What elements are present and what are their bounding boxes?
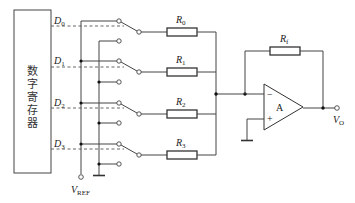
- opamp-noninverting-sign: +: [267, 113, 273, 124]
- register-char-2: 字: [27, 77, 38, 91]
- dac-circuit-diagram: 数 字 寄 存 器 D0 D1 D2 D3 VREF: [0, 0, 355, 203]
- output-label: VO: [333, 114, 344, 127]
- input-resistors: R0 R1 R2 R3: [141, 14, 216, 159]
- register-char-3: 寄: [27, 90, 38, 104]
- digital-register: 数 字 寄 存 器: [14, 10, 51, 173]
- register-char-4: 存: [27, 103, 38, 117]
- feedback-resistor-label: Rf: [279, 33, 289, 46]
- resistor-label-r0: R0: [175, 14, 186, 27]
- vref-terminal: [79, 175, 84, 180]
- bit-labels: D0 D1 D2 D3: [53, 15, 65, 151]
- opamp-inverting-sign: −: [267, 89, 273, 100]
- resistor-r2: R2: [141, 96, 216, 118]
- register-char-1: 数: [27, 65, 38, 78]
- switch-s2: [117, 101, 141, 125]
- vref-label: VREF: [71, 184, 90, 197]
- resistor-r3: R3: [141, 137, 216, 159]
- register-char-5: 器: [27, 117, 38, 130]
- switch-s0: [117, 19, 141, 43]
- resistor-r0: R0: [141, 14, 216, 36]
- switch-s3: [117, 142, 141, 166]
- resistor-label-r2: R2: [175, 96, 186, 109]
- output-terminal: [335, 106, 340, 111]
- output: VO: [303, 106, 344, 127]
- summing-bus: [214, 32, 264, 155]
- switch-s1: [117, 59, 141, 84]
- control-lines: [51, 26, 124, 149]
- opamp-label: A: [276, 102, 284, 113]
- resistor-r1: R1: [141, 54, 216, 76]
- resistor-label-r3: R3: [175, 137, 186, 150]
- opamp: − + A: [241, 84, 303, 141]
- vref-bus: VREF: [71, 21, 117, 197]
- resistor-label-r1: R1: [175, 54, 186, 67]
- bit-label-d1: D1: [53, 55, 65, 68]
- switches: [117, 19, 141, 166]
